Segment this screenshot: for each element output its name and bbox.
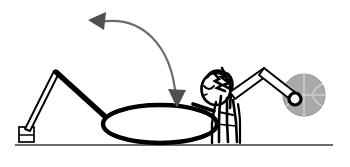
exercise-illustration: Stability ball medicine ball exercise li… [0, 0, 350, 167]
illustration-root: Stability ball medicine ball exercise li… [0, 0, 350, 167]
hair-strand-2 [227, 98, 228, 142]
stability-ball [103, 105, 217, 143]
hand [289, 93, 301, 105]
